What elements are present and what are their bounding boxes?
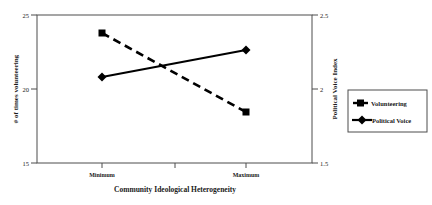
political-voice-marker-minimum [98, 73, 107, 82]
x-category-label-maximum: Maximum [233, 172, 260, 178]
series-political-voice [98, 46, 251, 82]
political-voice-marker-maximum [242, 46, 251, 55]
x-category-label-minimum: Minimum [89, 172, 115, 178]
plot-frame [37, 15, 312, 163]
x-axis-ticks [102, 163, 246, 168]
volunteering-marker-minimum [99, 30, 106, 37]
square-marker-icon [357, 100, 364, 107]
left-tick-label-0: 25 [23, 12, 30, 19]
legend-label-volunteering: Volunteering [371, 100, 408, 107]
legend-label-political-voice: Political Voice [372, 117, 411, 124]
legend: Volunteering Political Voice [348, 90, 427, 132]
right-tick-label-0: 2.5 [320, 12, 328, 19]
left-axis-ticks [31, 15, 37, 163]
x-axis-title: Community Ideological Heterogeneity [114, 185, 236, 194]
right-axis-title: Political Voice Index [331, 58, 339, 120]
volunteering-marker-maximum [243, 109, 250, 116]
right-tick-label-2: 1.5 [320, 160, 328, 167]
chart-figure: 25 20 15 2.5 2 1.5 Minimum Maximum Commu… [0, 0, 432, 205]
left-tick-label-2: 15 [23, 160, 30, 167]
legend-item-political-voice[interactable]: Political Voice [352, 116, 411, 125]
right-tick-label-1: 2 [320, 86, 323, 93]
legend-item-volunteering[interactable]: Volunteering [353, 100, 408, 107]
legend-box [348, 90, 427, 132]
left-axis-title: # of times volunteering [12, 54, 20, 123]
right-axis-ticks [312, 15, 318, 163]
left-tick-label-1: 20 [23, 86, 30, 93]
